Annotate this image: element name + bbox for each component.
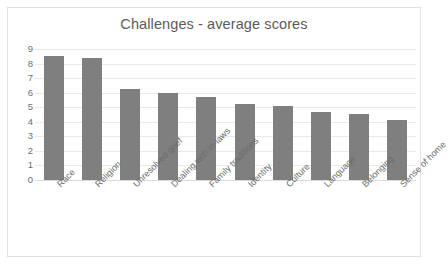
y-axis-tick-label: 5 [15,102,33,112]
y-axis-tick-label: 2 [15,146,33,156]
y-axis-tick-label: 3 [15,131,33,141]
x-axis: RaceReligionUnresolved griefDealing with… [35,182,416,262]
bar [311,112,331,180]
bar [349,114,369,180]
y-axis-tick-label: 1 [15,160,33,170]
bar [44,56,64,180]
y-axis: 9876543210 [13,49,33,180]
x-axis-line [35,180,416,181]
y-axis-tick-label: 8 [15,59,33,69]
y-axis-tick-label: 4 [15,117,33,127]
chart-container: Challenges - average scores 9876543210 R… [7,7,421,257]
y-axis-tick-label: 7 [15,73,33,83]
chart-title: Challenges - average scores [8,16,420,32]
bar [273,106,293,180]
y-axis-tick-label: 0 [15,175,33,185]
plot-area [35,49,416,180]
y-axis-tick-label: 9 [15,44,33,54]
bar [387,120,407,180]
bar [120,89,140,180]
gridline [35,49,416,50]
y-axis-tick-label: 6 [15,88,33,98]
bar [82,58,102,180]
